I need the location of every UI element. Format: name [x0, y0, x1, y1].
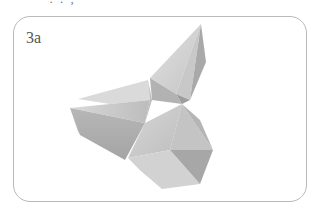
- polyhedron-illustration: [0, 0, 321, 209]
- upper-lobe: [150, 24, 206, 104]
